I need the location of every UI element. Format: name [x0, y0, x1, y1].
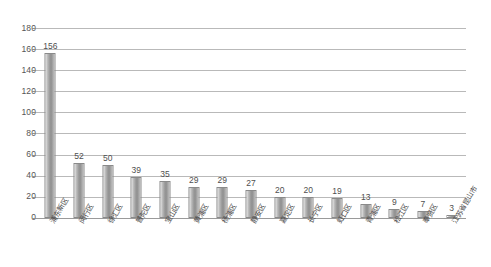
bar-value-label: 7 [421, 200, 426, 209]
bar-value-label: 39 [132, 166, 141, 175]
bar-slot: 50 [93, 28, 122, 218]
bar-value-label: 13 [361, 193, 370, 202]
bar-value-label: 19 [332, 187, 341, 196]
bar-slot: 20 [265, 28, 294, 218]
bar-slot: 52 [65, 28, 94, 218]
bar-slot: 29 [179, 28, 208, 218]
bar-value-label: 29 [189, 176, 198, 185]
bar-slot: 156 [36, 28, 65, 218]
y-axis: 180 160 140 120 100 80 60 40 20 0 [0, 0, 36, 267]
bar-slot: 27 [237, 28, 266, 218]
bar-slot: 13 [351, 28, 380, 218]
bar-slot: 9 [380, 28, 409, 218]
bar-slot: 29 [208, 28, 237, 218]
bar-slot: 35 [151, 28, 180, 218]
bar-value-label: 50 [103, 154, 112, 163]
bar-slot: 39 [122, 28, 151, 218]
bar-slot: 20 [294, 28, 323, 218]
bar-chart: 180 160 140 120 100 80 60 40 20 0 156525… [0, 0, 491, 267]
bar-value-label: 29 [218, 176, 227, 185]
bar-value-label: 35 [160, 170, 169, 179]
bar-slot: 19 [323, 28, 352, 218]
bar-series: 1565250393529292720201913973 [36, 28, 466, 218]
bar-value-label: 3 [449, 204, 454, 213]
bar-slot: 3 [437, 28, 466, 218]
bar-value-label: 52 [74, 152, 83, 161]
bar-value-label: 27 [246, 179, 255, 188]
bar-value-label: 20 [275, 186, 284, 195]
bar-value-label: 156 [43, 42, 57, 51]
bar-slot: 7 [409, 28, 438, 218]
bar[interactable] [45, 53, 56, 218]
bar-value-label: 9 [392, 198, 397, 207]
x-axis-labels: 浦东新区闵行区徐汇区普陀区宝山区黄浦区杨浦区静安区嘉定区长宁区虹口区青浦区松江区… [36, 219, 466, 267]
bar-value-label: 20 [304, 186, 313, 195]
